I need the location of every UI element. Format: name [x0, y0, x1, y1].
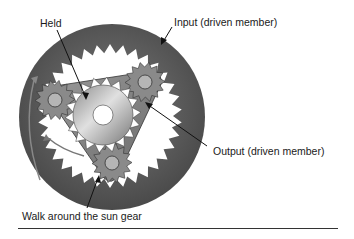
label-input: Input (driven member) [174, 16, 277, 28]
label-walk: Walk around the sun gear [22, 210, 142, 222]
label-held: Held [40, 17, 62, 29]
label-output: Output (driven member) [213, 145, 324, 157]
planetary-gear-diagram [0, 0, 354, 239]
bottom-rule [18, 228, 338, 229]
